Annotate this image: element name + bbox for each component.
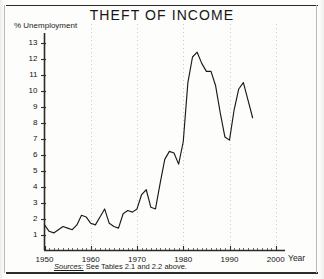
- source-note-text: See Tables 2.1 and 2.2 above.: [86, 262, 187, 271]
- y-tick-label-2: 2: [18, 215, 38, 223]
- figure-page: THEFT OF INCOME % Unemployment Year 1234…: [0, 0, 324, 279]
- y-tick-label-4: 4: [18, 183, 38, 191]
- y-tick-label-13: 13: [18, 39, 38, 47]
- y-tick-label-10: 10: [18, 87, 38, 95]
- y-tick-label-3: 3: [18, 199, 38, 207]
- y-tick-label-11: 11: [18, 71, 38, 79]
- y-tick-label-9: 9: [18, 103, 38, 111]
- x-tick-label-2000: 2000: [259, 256, 293, 264]
- y-tick-label-1: 1: [18, 231, 38, 239]
- y-tick-label-12: 12: [18, 55, 38, 63]
- y-tick-label-8: 8: [18, 119, 38, 127]
- line-chart-plot: [0, 0, 324, 279]
- x-tick-label-1990: 1990: [213, 256, 247, 264]
- y-tick-label-7: 7: [18, 135, 38, 143]
- source-note: Sources: See Tables 2.1 and 2.2 above.: [54, 262, 187, 271]
- y-tick-label-6: 6: [18, 151, 38, 159]
- y-tick-label-5: 5: [18, 167, 38, 175]
- data-series-line: [45, 52, 253, 233]
- source-note-label: Sources:: [54, 262, 84, 271]
